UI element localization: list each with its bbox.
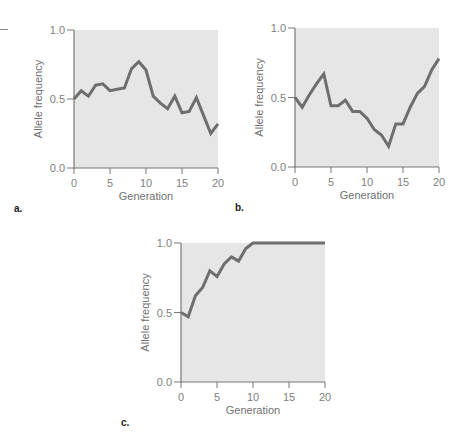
x-tick-label: 20 [433, 176, 445, 188]
x-tick-label: 5 [328, 176, 334, 188]
y-tick-label: 1.0 [157, 237, 172, 249]
x-axis-title: Generation [340, 189, 394, 201]
x-tick-label: 10 [361, 176, 373, 188]
y-axis-title: Allele frequency [139, 273, 151, 352]
x-tick-label: 15 [176, 177, 188, 189]
x-tick-label: 20 [212, 177, 224, 189]
x-tick-label: 0 [292, 176, 298, 188]
plot-area [181, 243, 325, 382]
plot-area [295, 28, 439, 167]
x-tick-label: 15 [397, 176, 409, 188]
x-tick-label: 15 [283, 391, 295, 403]
x-axis-title: Generation [119, 190, 173, 202]
panel-label: b. [235, 202, 244, 213]
y-tick-label: 0.5 [157, 307, 172, 319]
y-tick-label: 0.5 [50, 93, 65, 105]
y-tick-label: 0.0 [157, 376, 172, 388]
panel-label: c. [121, 417, 130, 428]
y-tick-label: 1.0 [271, 22, 286, 34]
y-axis-title: Allele frequency [253, 58, 265, 137]
y-tick-label: 0.0 [271, 161, 286, 173]
x-tick-label: 10 [247, 391, 259, 403]
chart-panel-c: 0.00.51.005101520GenerationAllele freque… [120, 225, 340, 438]
y-tick-label: 1.0 [50, 24, 65, 36]
x-tick-label: 5 [214, 391, 220, 403]
y-axis-title: Allele frequency [32, 59, 44, 138]
x-axis-title: Generation [226, 404, 280, 416]
x-tick-label: 20 [319, 391, 331, 403]
chart-panel-a: 0.00.51.005101520GenerationAllele freque… [0, 0, 231, 219]
panel-label: a. [14, 203, 23, 214]
x-tick-label: 10 [140, 177, 152, 189]
x-tick-label: 0 [71, 177, 77, 189]
chart-panel-b: 0.00.51.005101520GenerationAllele freque… [231, 0, 462, 219]
y-tick-label: 0.5 [271, 92, 286, 104]
x-tick-label: 0 [178, 391, 184, 403]
x-tick-label: 5 [107, 177, 113, 189]
y-tick-label: 0.0 [50, 162, 65, 174]
